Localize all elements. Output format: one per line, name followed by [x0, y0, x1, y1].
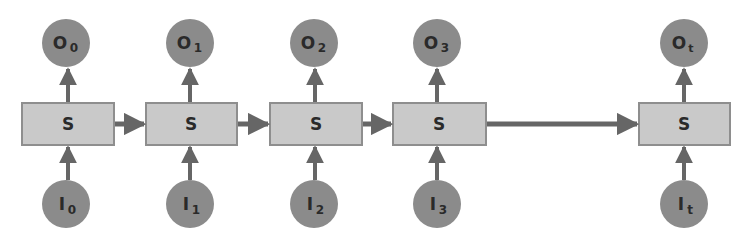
- output-node-label: O: [301, 33, 315, 53]
- output-node: O 1: [166, 19, 214, 67]
- output-node: O 3: [413, 19, 461, 67]
- input-node: I t: [660, 180, 708, 228]
- timestep-t: O t S I t: [639, 19, 730, 228]
- state-box-label: S: [185, 114, 197, 134]
- state-box: S: [393, 103, 486, 145]
- input-node-subscript: 2: [316, 203, 324, 217]
- input-node: I 0: [42, 180, 90, 228]
- input-node-label: I: [59, 194, 65, 214]
- output-node-subscript: t: [688, 42, 693, 55]
- output-node: O 0: [42, 19, 90, 67]
- output-node-subscript: 2: [318, 41, 326, 55]
- input-node-subscript: 0: [68, 203, 76, 217]
- output-node-subscript: 1: [194, 41, 202, 55]
- input-node: I 1: [166, 180, 214, 228]
- state-box: S: [639, 103, 730, 145]
- input-node-label: I: [430, 194, 436, 214]
- output-node-label: O: [424, 33, 438, 53]
- output-node-subscript: 0: [70, 41, 78, 55]
- input-node-label: I: [307, 194, 313, 214]
- input-node: I 3: [413, 180, 461, 228]
- output-node-label: O: [53, 33, 67, 53]
- input-node: I 2: [290, 180, 338, 228]
- state-box-label: S: [62, 114, 74, 134]
- input-node-subscript: 3: [439, 203, 447, 217]
- timestep-3: O 3 S I 3: [393, 19, 486, 228]
- state-box-label: S: [678, 114, 690, 134]
- state-box-label: S: [433, 114, 445, 134]
- timestep-2: O 2 S I 2: [270, 19, 362, 228]
- state-box: S: [270, 103, 362, 145]
- state-box: S: [146, 103, 237, 145]
- timestep-0: O 0 S I 0: [22, 19, 114, 228]
- output-node-subscript: 3: [441, 41, 449, 55]
- output-node-label: O: [177, 33, 191, 53]
- input-node-subscript: 1: [192, 203, 200, 217]
- output-node: O t: [660, 19, 708, 67]
- timestep-1: O 1 S I 1: [146, 19, 237, 228]
- input-node-label: I: [678, 194, 684, 214]
- output-node-label: O: [672, 33, 686, 53]
- state-box: S: [22, 103, 114, 145]
- rnn-unrolled-diagram: O 0 S I 0 O 1 S I 1: [0, 0, 754, 241]
- input-node-label: I: [183, 194, 189, 214]
- output-node: O 2: [290, 19, 338, 67]
- input-node-subscript: t: [687, 203, 693, 217]
- state-box-label: S: [310, 114, 322, 134]
